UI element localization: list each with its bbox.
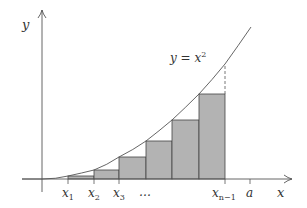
riemann-diagram: y x y = x2 x1 x2 x3 … xn−1 a	[0, 0, 307, 208]
tick-label-x3: x3	[113, 186, 125, 202]
tick-label-xn-1: xn−1	[212, 186, 236, 202]
rectangle-3	[119, 157, 146, 179]
rectangle-4	[146, 141, 172, 179]
tick-label-x1: x1	[62, 186, 74, 202]
rectangle-5	[172, 120, 199, 179]
rectangle-2	[94, 170, 119, 179]
y-axis	[38, 10, 46, 192]
tick-label-a: a	[246, 186, 253, 200]
x-axis-label: x	[277, 185, 285, 200]
tick-label-ellipsis: …	[139, 185, 151, 199]
riemann-rectangles	[68, 94, 225, 179]
rectangle-6	[199, 94, 225, 179]
curve-label: y = x2	[169, 50, 206, 65]
tick-label-x2: x2	[88, 186, 100, 202]
y-axis-label: y	[21, 17, 30, 32]
x-ticks	[68, 179, 250, 184]
